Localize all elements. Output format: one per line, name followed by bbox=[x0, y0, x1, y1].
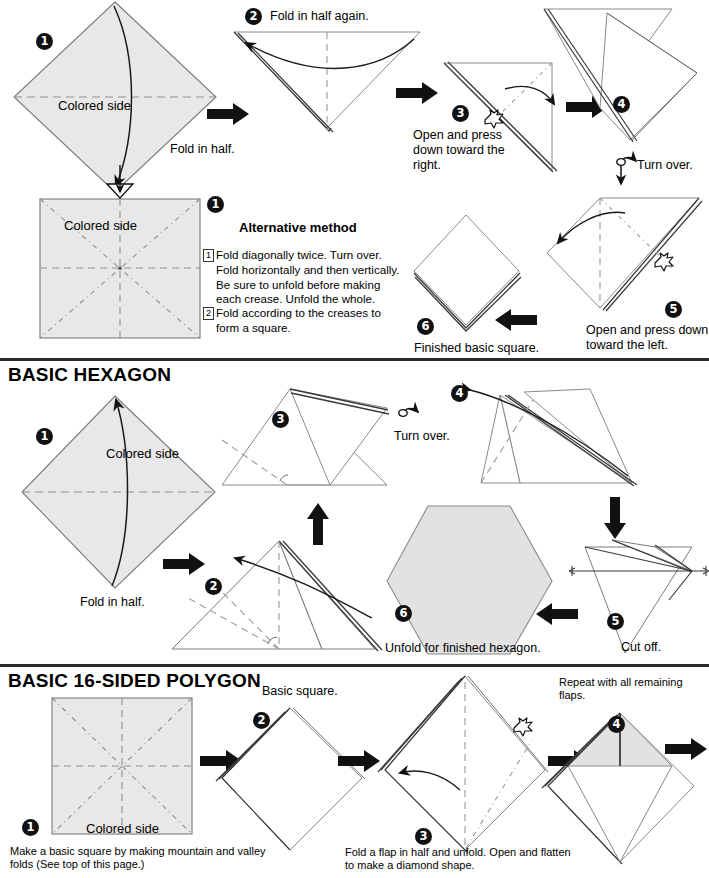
caption-poly-3: Fold a flap in half and unfold. Open and… bbox=[345, 846, 571, 872]
figure-hex-step5 bbox=[569, 540, 709, 653]
step-badge-poly-4: 4 bbox=[608, 716, 625, 733]
caption-sq-6: Finished basic square. bbox=[414, 341, 539, 356]
step-badge-poly-2: 2 bbox=[253, 712, 270, 729]
process-arrow-hex-2 bbox=[307, 503, 329, 545]
turn-over-label-2: Turn over. bbox=[394, 429, 450, 444]
process-arrow-poly-4 bbox=[665, 738, 707, 760]
process-arrow-hex-4 bbox=[536, 603, 578, 625]
instruction-sheet: 1 Colored side Fold in half. 2 Fold in h… bbox=[0, 0, 709, 878]
figure-poly-step3 bbox=[378, 676, 548, 853]
caption-sq-5: Open and press down toward the left. bbox=[586, 323, 708, 353]
turn-over-icon-2 bbox=[399, 409, 418, 417]
step-badge-hex-3: 3 bbox=[272, 411, 289, 428]
alternative-body-2: Fold according to the creases to form a … bbox=[216, 306, 381, 336]
colored-side-label-sq: Colored side bbox=[58, 98, 131, 113]
caption-poly-2: Basic square. bbox=[262, 684, 338, 699]
process-arrow-4 bbox=[495, 309, 537, 331]
figure-alt-square bbox=[40, 165, 200, 338]
step-badge-hex-6: 6 bbox=[395, 605, 412, 622]
turn-over-icon-1 bbox=[617, 158, 636, 184]
step-badge-poly-1: 1 bbox=[22, 819, 39, 836]
process-arrow-1 bbox=[207, 103, 249, 125]
caption-hex-5: Cut off. bbox=[621, 640, 661, 655]
figure-poly-step4 bbox=[542, 713, 694, 864]
caption-sq-3: Open and press down toward the right. bbox=[413, 128, 505, 172]
diagram-artwork bbox=[0, 0, 709, 878]
process-arrow-2 bbox=[396, 82, 438, 104]
section-divider-2 bbox=[0, 664, 709, 667]
press-here-hand-icon-2 bbox=[655, 253, 673, 271]
section-title-polygon: BASIC 16-SIDED POLYGON bbox=[8, 670, 261, 692]
step-badge-hex-5: 5 bbox=[607, 613, 624, 630]
figure-hex-step4 bbox=[470, 389, 637, 486]
step-badge-sq-6: 6 bbox=[417, 318, 434, 335]
step-badge-sq-1: 1 bbox=[36, 33, 53, 50]
figure-square-step4 bbox=[544, 9, 697, 142]
step-badge-sq-4: 4 bbox=[613, 96, 630, 113]
step-badge-sq-5: 5 bbox=[665, 301, 682, 318]
colored-side-label-hex: Colored side bbox=[106, 446, 179, 461]
colored-side-label-poly: Colored side bbox=[86, 821, 159, 836]
caption-sq-1: Fold in half. bbox=[170, 142, 235, 157]
step-badge-alt-1: 1 bbox=[207, 196, 224, 213]
colored-side-label-alt: Colored side bbox=[64, 218, 137, 233]
step-badge-poly-3: 3 bbox=[415, 828, 432, 845]
alt-mark-2: 2 bbox=[203, 307, 214, 320]
alt-mark-1: 1 bbox=[203, 249, 214, 262]
process-arrow-hex-1 bbox=[163, 553, 205, 575]
press-here-hand-icon-3 bbox=[514, 718, 532, 736]
step-badge-sq-3: 3 bbox=[452, 105, 469, 122]
figure-square-step5 bbox=[547, 198, 702, 311]
step-badge-hex-1: 1 bbox=[36, 428, 53, 445]
figure-poly-step2 bbox=[216, 708, 365, 850]
figure-square-step1 bbox=[14, 2, 216, 192]
caption-poly-1: Make a basic square by making mountain a… bbox=[10, 845, 266, 871]
figure-poly-step1 bbox=[52, 698, 192, 834]
caption-hex-1: Fold in half. bbox=[80, 595, 145, 610]
alternative-body-1: Fold diagonally twice. Turn over. Fold h… bbox=[216, 248, 399, 307]
caption-hex-6: Unfold for finished hexagon. bbox=[385, 641, 541, 656]
step-badge-hex-4: 4 bbox=[451, 385, 468, 402]
section-title-hexagon: BASIC HEXAGON bbox=[8, 364, 171, 386]
caption-poly-4: Repeat with all remaining flaps. bbox=[559, 676, 683, 702]
caption-sq-2: Fold in half again. bbox=[270, 9, 369, 24]
turn-over-label-1: Turn over. bbox=[637, 158, 693, 173]
figure-square-step2 bbox=[234, 32, 420, 132]
figure-hex-step6 bbox=[387, 506, 552, 654]
alternative-method-heading: Alternative method bbox=[239, 220, 357, 235]
step-badge-sq-2: 2 bbox=[245, 8, 262, 25]
section-divider-1 bbox=[0, 358, 709, 361]
figure-hex-step2 bbox=[172, 541, 382, 651]
figure-hex-step3 bbox=[222, 389, 389, 485]
step-badge-hex-2: 2 bbox=[205, 578, 222, 595]
process-arrow-hex-3 bbox=[604, 497, 626, 539]
